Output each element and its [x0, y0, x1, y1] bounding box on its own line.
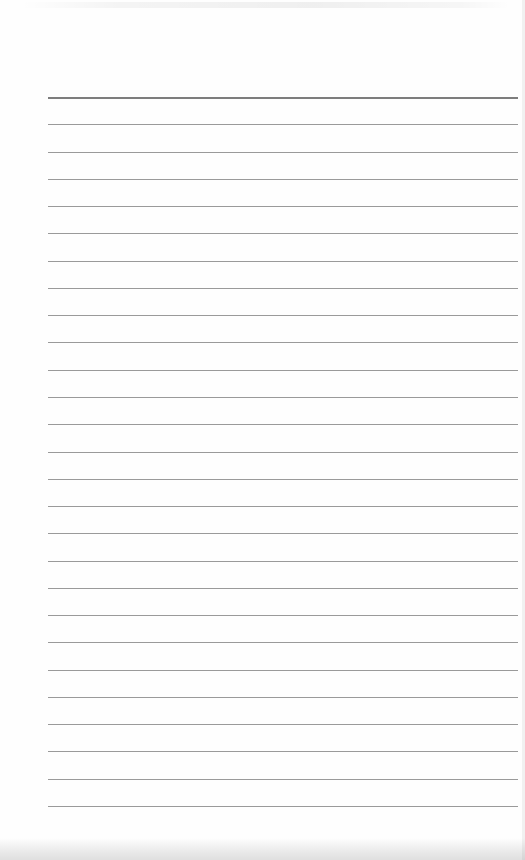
rule-line [48, 533, 518, 534]
scan-bleed-bottom [0, 838, 525, 860]
rule-line [48, 588, 518, 589]
rule-line [48, 152, 518, 153]
rule-line [48, 206, 518, 207]
rule-line [48, 506, 518, 507]
rule-line [48, 697, 518, 698]
rule-line [48, 342, 518, 343]
rule-line [48, 424, 518, 425]
rule-line [48, 670, 518, 671]
rule-line [48, 261, 518, 262]
ruled-paper-page [0, 0, 525, 860]
rule-line [48, 479, 518, 480]
rule-line [48, 452, 518, 453]
rule-line [48, 561, 518, 562]
rule-line [48, 179, 518, 180]
rule-line [48, 233, 518, 234]
rule-line [48, 779, 518, 780]
rule-line [48, 397, 518, 398]
rule-line [48, 315, 518, 316]
rule-line [48, 615, 518, 616]
rule-line [48, 288, 518, 289]
header-rule-line [48, 97, 518, 99]
rule-line [48, 724, 518, 725]
rule-line [48, 806, 518, 807]
rule-line [48, 751, 518, 752]
rule-line [48, 124, 518, 125]
scan-bleed-top [20, 2, 510, 8]
rule-line [48, 370, 518, 371]
rule-line [48, 642, 518, 643]
